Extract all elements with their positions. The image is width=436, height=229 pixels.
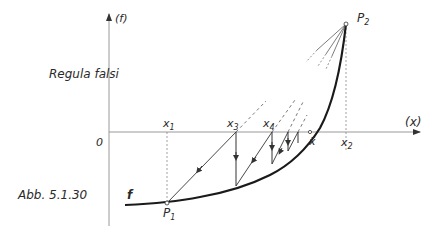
x2-label: x2: [341, 137, 353, 151]
x2-sub: 2: [348, 142, 353, 151]
p1-sub: 1: [170, 213, 175, 222]
y-axis-label: (f): [115, 13, 127, 24]
x4-sub: 4: [270, 123, 275, 132]
x3-label: x3: [227, 118, 239, 132]
x1-label: x1: [163, 118, 175, 132]
secant-x5-x6-dash: [298, 115, 307, 132]
fan-line-3-dash: [326, 56, 332, 69]
point-p1: [165, 201, 169, 205]
origin-label: 0: [96, 137, 103, 148]
xbar-label: x̄: [309, 136, 316, 147]
secant-p1-x3-dash: [236, 101, 266, 132]
x-axis-label: (x): [405, 116, 421, 128]
x1-sub: 1: [170, 123, 175, 132]
secant-x4-x5: [272, 132, 288, 164]
arrow-secant-x5: [280, 148, 282, 152]
point-p2: [344, 22, 348, 26]
secant-x3-x4-dash: [272, 100, 295, 132]
p2-label: P2: [357, 12, 369, 27]
x4-label: x4: [263, 118, 275, 132]
x3-sub: 3: [234, 123, 239, 132]
point-xbar: [308, 130, 311, 133]
diagram-title: Regula falsi: [49, 68, 119, 80]
arrow-on-secant: [198, 166, 202, 171]
fan-line-2-dash: [318, 54, 326, 66]
p2-sub: 2: [364, 18, 369, 27]
p1-label: P1: [163, 207, 175, 222]
secant-x5-x6: [288, 132, 298, 151]
fan-line-1-dash: [306, 50, 317, 62]
figure-caption: Abb. 5.1.30: [18, 189, 87, 201]
curve-label: f: [127, 189, 132, 201]
